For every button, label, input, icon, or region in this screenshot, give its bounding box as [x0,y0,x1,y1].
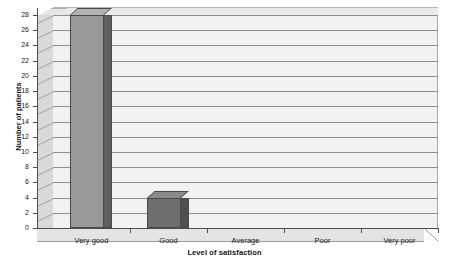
x-axis-title: Level of satisfaction [0,248,449,257]
bar [147,198,181,228]
x-axis-line [37,228,438,229]
x-axis-category-label: Very poor [360,236,440,245]
bar-front-face [70,15,104,228]
x-axis-tick [207,228,208,233]
x-axis-tick [130,228,131,233]
x-axis-tick [284,228,285,233]
bar [70,15,104,228]
bar-chart: 0246810121416182022242628 Very goodGoodA… [0,0,449,272]
x-axis-tick [438,228,439,233]
x-axis-category-label: Very good [52,236,132,245]
x-axis-category-label: Poor [283,236,363,245]
bar-side-face [181,198,189,228]
bar-side-face [104,15,112,228]
y-axis-tick-label: 2 [5,209,29,217]
x-axis-category-label: Good [129,236,209,245]
x-axis-tick [361,228,362,233]
y-axis-tick-label: 6 [5,178,29,186]
y-axis-tick-label: 24 [5,41,29,49]
y-axis-tick-label: 26 [5,26,29,34]
bar-front-face [147,198,181,228]
y-axis-tick-label: 0 [5,224,29,232]
x-axis-category-label: Average [206,236,286,245]
bar-top-face [147,191,189,198]
y-axis-title: Number of patients [14,57,23,177]
y-axis-tick-label: 28 [5,11,29,19]
y-axis-line [37,8,38,228]
y-axis-tick-label: 4 [5,194,29,202]
